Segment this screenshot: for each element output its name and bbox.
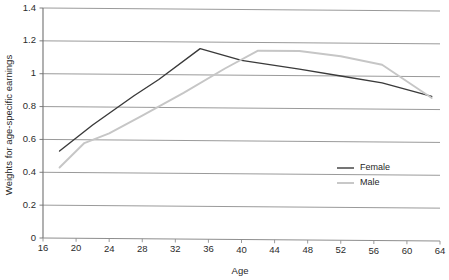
x-tick-label: 52	[335, 244, 346, 255]
legend-label-male: Male	[360, 177, 380, 187]
gridline	[43, 74, 440, 77]
x-tick-label: 40	[236, 244, 247, 255]
x-tick-label: 64	[435, 245, 446, 256]
axis-lines	[43, 8, 440, 241]
chart-figure: 00.20.40.60.811.21.4 1620242832364044485…	[0, 0, 449, 280]
line-chart: 00.20.40.60.811.21.4 1620242832364044485…	[0, 0, 449, 280]
gridline	[43, 139, 440, 142]
y-tick-label: 1.2	[23, 34, 36, 45]
x-tick-label: 16	[38, 242, 49, 253]
x-tick-label: 20	[71, 242, 82, 253]
y-tick-label: 1.4	[23, 2, 36, 13]
x-tick-label: 48	[302, 244, 313, 255]
y-axis-title: Weights for age-specific earnings	[3, 55, 14, 196]
x-tick-label: 32	[170, 243, 181, 254]
gridline	[43, 107, 440, 110]
x-tick-label: 24	[104, 243, 115, 254]
x-tick-label: 44	[269, 244, 280, 255]
y-tick-label: 1	[31, 67, 36, 78]
x-tick-labels: 16202428323640444852566064	[38, 242, 446, 256]
legend-label-female: Female	[360, 162, 390, 172]
x-tick-label: 56	[369, 245, 380, 256]
x-tick-label: 60	[402, 245, 413, 256]
y-tick-label: 0.6	[23, 133, 36, 144]
x-tick-label: 36	[203, 243, 214, 254]
gridline	[43, 205, 440, 208]
y-tick-label: 0.2	[23, 199, 36, 210]
y-tick-labels: 00.20.40.60.811.21.4	[23, 2, 36, 243]
gridline	[43, 41, 440, 44]
y-tick-label: 0.8	[23, 100, 36, 111]
gridline	[43, 8, 440, 11]
gridlines	[43, 8, 440, 208]
gridline	[43, 172, 440, 175]
y-tick-label: 0	[31, 232, 36, 243]
x-tick-label: 28	[137, 243, 148, 254]
x-axis-title: Age	[232, 265, 249, 276]
y-tick-label: 0.4	[23, 166, 36, 177]
